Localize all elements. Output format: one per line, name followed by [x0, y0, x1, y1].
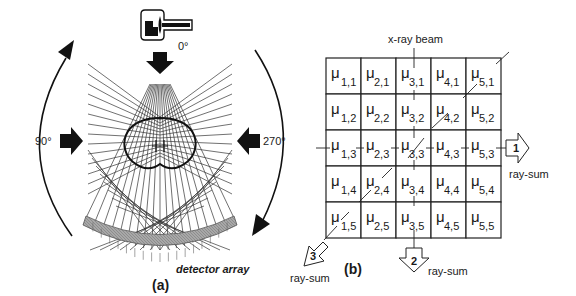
ray-sum-3-arrow-icon: 3 — [304, 242, 328, 266]
mu-symbol: μ — [331, 136, 340, 153]
grid-cell: μ4,5 — [431, 202, 466, 238]
grid-cell: μ3,3 — [396, 130, 431, 166]
grid-cell: μ2,2 — [361, 94, 396, 130]
mu-subscript: 4,3 — [444, 148, 459, 160]
x-ray-tube-icon — [141, 10, 192, 40]
mu-subscript: 5,5 — [479, 220, 494, 232]
mu-subscript: 5,2 — [479, 112, 494, 124]
mu-symbol: μ — [331, 172, 340, 189]
mu-subscript: 5,1 — [479, 76, 494, 88]
ray-sum-1-label: ray-sum — [509, 168, 549, 180]
ray-sum-2-arrow-icon: 2 — [399, 248, 429, 272]
grid-cell: μ2,4 — [361, 166, 396, 202]
grid-cell: μ5,2 — [466, 94, 501, 130]
grid-cell: μ4,4 — [431, 166, 466, 202]
mu-subscript: 2,2 — [374, 112, 389, 124]
grid-cell: μ4,3 — [431, 130, 466, 166]
grid-cell: μ1,1 — [326, 58, 361, 94]
mu-subscript: 4,1 — [444, 76, 459, 88]
mu-subscript: 2,3 — [374, 148, 389, 160]
mu-subscript: 1,1 — [341, 76, 356, 88]
grid-cell: μ3,1 — [396, 58, 431, 94]
mu-subscript: 4,2 — [444, 112, 459, 124]
grid-cell: μ4,1 — [431, 58, 466, 94]
grid-cell: μ2,1 — [361, 58, 396, 94]
panel-b-label: (b) — [344, 261, 362, 277]
fan-beam-rays — [86, 64, 234, 250]
ray-sum-1-arrow-icon: 1 — [506, 133, 529, 163]
grid-cell: μ5,3 — [466, 130, 501, 166]
grid-cell: μ5,4 — [466, 166, 501, 202]
mu-subscript: 5,3 — [479, 148, 494, 160]
mu-subscript: 3,5 — [409, 220, 424, 232]
mu-subscript: 2,5 — [374, 220, 389, 232]
mu-subscript: 3,4 — [409, 184, 424, 196]
grid-cell: μ3,5 — [396, 202, 431, 238]
mu-subscript: 1,5 — [341, 220, 356, 232]
panel-b: x-ray beam μ1,1μ2,1μ3,1μ4,1μ5,1μ1,2μ2,2μ… — [290, 33, 549, 284]
mu-subscript: 3,1 — [409, 76, 424, 88]
grid-cell: μ1,4 — [326, 166, 361, 202]
grid-cell: μ3,4 — [396, 166, 431, 202]
svg-text:1: 1 — [513, 142, 519, 154]
mu-subscript: 3,2 — [409, 112, 424, 124]
right-angle-label: 270° — [263, 135, 286, 147]
panel-a: 0° 90° 270° detector array (a) — [35, 10, 286, 293]
mu-subscript: 4,5 — [444, 220, 459, 232]
mu-subscript: 1,4 — [341, 184, 356, 196]
left-angle-label: 90° — [35, 135, 52, 147]
grid-cell: μ5,1 — [466, 58, 501, 94]
grid-cell: μ2,5 — [361, 202, 396, 238]
ct-diagram: 0° 90° 270° detector array (a) x-ray bea… — [0, 0, 576, 296]
arrow-right-icon — [60, 127, 83, 155]
mu-subscript: 1,2 — [341, 112, 356, 124]
mu-subscript: 2,4 — [374, 184, 389, 196]
svg-text:2: 2 — [411, 255, 417, 267]
mu-subscript: 5,4 — [479, 184, 494, 196]
svg-text:3: 3 — [310, 250, 316, 262]
grid-cell: μ5,5 — [466, 202, 501, 238]
mu-subscript: 4,4 — [444, 184, 459, 196]
pixel-grid: μ1,1μ2,1μ3,1μ4,1μ5,1μ1,2μ2,2μ3,2μ4,2μ5,2… — [326, 58, 501, 238]
grid-cell: μ2,3 — [361, 130, 396, 166]
mu-symbol: μ — [331, 64, 340, 81]
mu-symbol: μ — [331, 100, 340, 117]
arrow-down-icon — [146, 52, 174, 74]
mu-symbol: μ — [331, 208, 340, 225]
grid-cell: μ3,2 — [396, 94, 431, 130]
ray-sum-3-label: ray-sum — [290, 272, 330, 284]
ray-sum-2-label: ray-sum — [428, 265, 468, 277]
mu-subscript: 1,3 — [341, 148, 356, 160]
detector-array-label: detector array — [176, 263, 250, 275]
grid-cell: μ1,2 — [326, 94, 361, 130]
source-angle-label: 0° — [178, 40, 189, 52]
arrow-left-icon — [237, 127, 260, 155]
x-ray-beam-label: x-ray beam — [388, 33, 443, 45]
grid-cell: μ1,3 — [326, 130, 361, 166]
panel-a-label: (a) — [152, 277, 169, 293]
mu-subscript: 2,1 — [374, 76, 389, 88]
